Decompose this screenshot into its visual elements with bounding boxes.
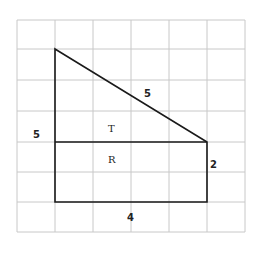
bottom-label: 4 <box>127 212 134 223</box>
composite-figure-diagram: 5 5 2 4 T R <box>0 0 256 253</box>
rectangle-region-label: R <box>108 154 116 165</box>
hypotenuse-label: 5 <box>144 88 151 99</box>
left-side-label: 5 <box>33 129 40 140</box>
triangle-region-label: T <box>108 123 115 134</box>
right-side-label: 2 <box>210 159 217 170</box>
grid <box>17 20 245 232</box>
